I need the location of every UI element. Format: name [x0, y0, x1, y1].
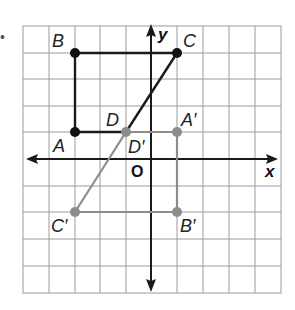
x-axis-label: x — [264, 162, 276, 181]
point-c — [172, 48, 182, 58]
label-b-prime: B′ — [180, 216, 196, 236]
label-a: A — [52, 136, 65, 156]
label-d: D — [106, 110, 119, 130]
problem-bullet: • — [0, 29, 5, 45]
point-c-prime — [70, 207, 80, 217]
label-b: B — [52, 31, 64, 51]
point-b — [70, 48, 80, 58]
label-d-prime: D′ — [128, 137, 145, 157]
label-a-prime: A′ — [180, 110, 197, 130]
y-axis-label: y — [157, 25, 169, 44]
axes — [26, 24, 278, 292]
label-c: C — [183, 31, 197, 51]
label-c-prime: C′ — [51, 216, 68, 236]
point-a — [70, 127, 80, 137]
coordinate-plane-diagram: • — [0, 0, 295, 310]
origin-label: O — [131, 163, 143, 180]
labels: B C A D A′ D′ C′ B′ y x O — [51, 25, 276, 236]
point-d-d-prime — [121, 127, 131, 137]
